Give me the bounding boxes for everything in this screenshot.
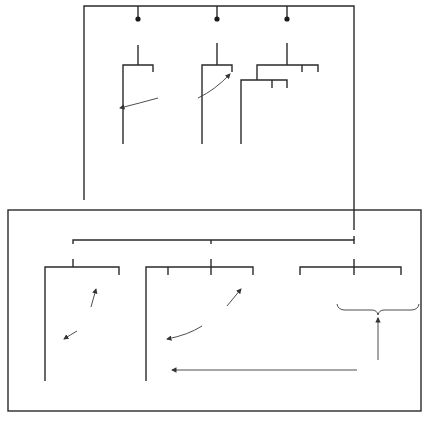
scheduling-2nd-level-arrow-up [91, 289, 96, 307]
engineering-bracket [123, 45, 153, 144]
first-level-arrow-right [198, 74, 230, 98]
construction-node-dot [284, 16, 289, 21]
planning-control-lines [73, 236, 354, 244]
cost-2nd-level-arrow-down [167, 326, 202, 339]
diagram-svg [0, 0, 428, 423]
matrix-organization-diagram [0, 0, 428, 423]
reports-bracket [300, 259, 401, 275]
scheduling-bracket [45, 259, 119, 381]
scheduling-2nd-level-arrow-down [64, 331, 77, 339]
engineering-node-dot [135, 16, 140, 21]
first-level-arrow-left [120, 98, 158, 108]
third-level-brace [337, 304, 419, 315]
construction-bracket [241, 43, 318, 144]
cost-2nd-level-arrow-up [227, 289, 241, 306]
top-connector-lines [84, 6, 354, 230]
cost-bracket [146, 259, 253, 381]
purchasing-node-dot [214, 16, 219, 21]
